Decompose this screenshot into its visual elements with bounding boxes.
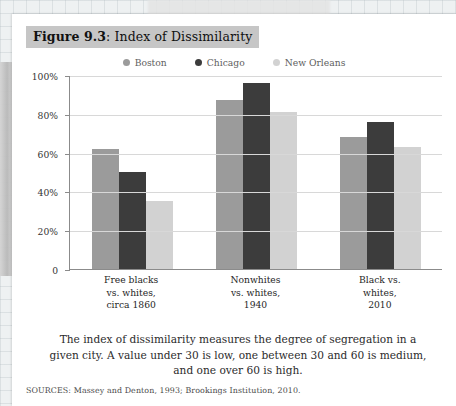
category-label-line: vs. whites, [69, 287, 193, 300]
figure-page: Figure 9.3: Index of Dissimilarity Bosto… [12, 14, 456, 406]
legend-item-new-orleans: New Orleans [273, 57, 346, 68]
chart-legend: BostonChicagoNew Orleans [12, 57, 456, 68]
legend-item-chicago: Chicago [195, 57, 245, 68]
x-axis-category-label: Free blacksvs. whites,circa 1860 [69, 274, 193, 312]
figure-caption: The index of dissimilarity measures the … [46, 332, 430, 379]
figure-number: Figure 9.3 [33, 29, 106, 44]
x-axis-category-labels: Free blacksvs. whites,circa 1860Nonwhite… [69, 274, 442, 312]
legend-dot-icon [273, 59, 280, 66]
gridline [70, 115, 442, 116]
category-label-line: 1940 [193, 299, 317, 312]
category-label-line: Black vs. [318, 274, 442, 287]
x-axis-category-label: Black vs.whites,2010 [318, 274, 442, 312]
legend-dot-icon [123, 59, 130, 66]
x-axis-category-label: Nonwhitesvs. whites,1940 [193, 274, 317, 312]
figure-title-text: Index of Dissimilarity [114, 29, 252, 44]
figure-title: Figure 9.3: Index of Dissimilarity [26, 26, 259, 48]
category-label-line: Nonwhites [193, 274, 317, 287]
y-axis-tick-label: 80% [38, 109, 58, 120]
caption-line-2: given city. A value under 30 is low, one… [50, 349, 427, 361]
y-axis-tick-label: 0 [52, 265, 58, 276]
bar-boston[interactable] [216, 100, 243, 269]
y-axis: 100%80%60%40%20%0 [26, 76, 58, 270]
bar-group [70, 76, 194, 269]
page-left-edge-shadow [0, 62, 12, 276]
y-axis-tick-mark [65, 270, 70, 271]
category-label-line: circa 1860 [69, 299, 193, 312]
bar-group [318, 76, 442, 269]
category-label-line: 2010 [318, 299, 442, 312]
y-axis-tick-label: 40% [38, 187, 58, 198]
legend-dot-icon [195, 59, 202, 66]
category-label-line: Free blacks [69, 274, 193, 287]
y-axis-tick-label: 60% [38, 148, 58, 159]
gridline [70, 76, 442, 77]
gridline [70, 231, 442, 232]
bar-groups [70, 76, 442, 269]
legend-item-label: New Orleans [285, 57, 346, 68]
chart-plot: 100%80%60%40%20%0 Free blacksvs. whites,… [26, 76, 442, 286]
y-axis-tick-label: 20% [38, 226, 58, 237]
bar-chicago[interactable] [367, 122, 394, 269]
bar-chicago[interactable] [243, 83, 270, 269]
gridline [70, 154, 442, 155]
plot-area [69, 76, 442, 270]
legend-item-label: Chicago [207, 57, 245, 68]
bar-group [194, 76, 318, 269]
bar-new-orleans[interactable] [270, 112, 297, 269]
caption-line-3: and one over 60 is high. [173, 364, 302, 376]
bar-new-orleans[interactable] [394, 147, 421, 269]
figure-sources: SOURCES: Massey and Denton, 1993; Brooki… [26, 386, 442, 395]
legend-item-label: Boston [135, 57, 167, 68]
category-label-line: vs. whites, [193, 287, 317, 300]
bar-boston[interactable] [92, 149, 119, 269]
category-label-line: whites, [318, 287, 442, 300]
caption-line-1: The index of dissimilarity measures the … [60, 333, 417, 345]
legend-item-boston: Boston [123, 57, 167, 68]
bar-new-orleans[interactable] [146, 201, 173, 269]
y-axis-tick-label: 100% [32, 71, 58, 82]
gridline [70, 192, 442, 193]
bar-chicago[interactable] [119, 172, 146, 269]
bar-boston[interactable] [340, 137, 367, 269]
